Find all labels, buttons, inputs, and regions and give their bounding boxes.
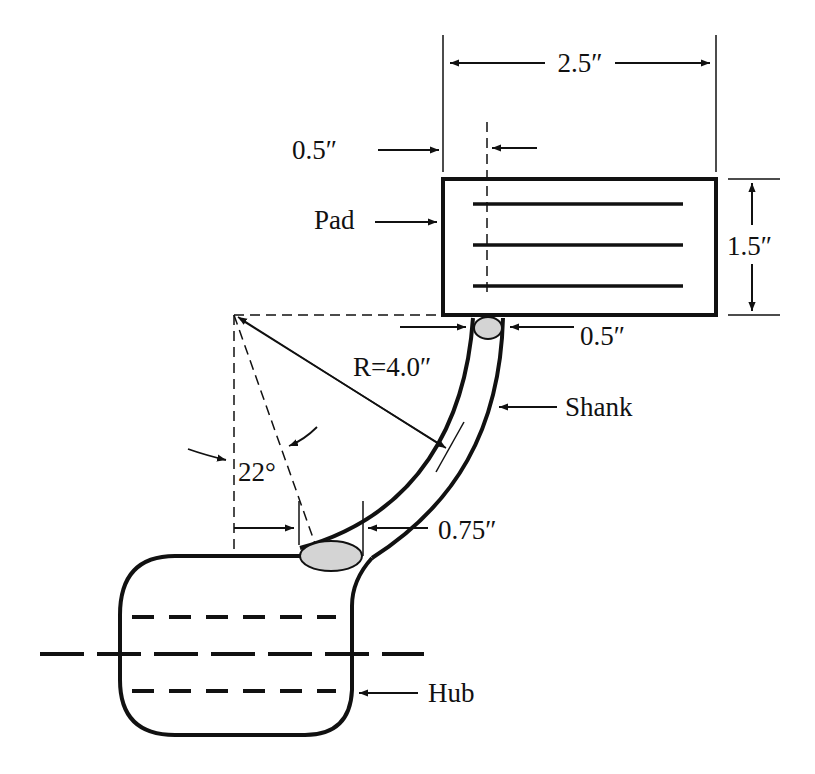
shank-bottom-width-dimension: 0.75″: [234, 501, 497, 556]
hub: [40, 556, 424, 735]
shank-callout: Shank: [499, 392, 633, 422]
shank-label: Shank: [565, 392, 633, 422]
shank-top-width-label: 0.5″: [580, 321, 625, 351]
pad: [443, 179, 716, 315]
pad-height-dimension: 1.5″: [727, 179, 780, 315]
radius-dimension: R=4.0″: [238, 317, 464, 472]
angle-dimension: 22°: [188, 427, 317, 487]
shank-bottom-width-label: 0.75″: [438, 515, 497, 545]
shank-pad-hub-diagram: 2.5″ 0.5″ Pad 1.5″ R=4.0″: [0, 0, 815, 774]
pad-callout: Pad: [314, 205, 437, 235]
hub-callout: Hub: [359, 678, 475, 708]
angle-label: 22°: [238, 457, 276, 487]
shank-top-width-dimension: 0.5″: [400, 321, 625, 351]
hub-label: Hub: [428, 678, 475, 708]
radius-label: R=4.0″: [353, 352, 431, 382]
pad-height-label: 1.5″: [727, 231, 772, 261]
pad-label: Pad: [314, 205, 355, 235]
pad-offset-label: 0.5″: [292, 135, 337, 165]
pad-width-dimension: 2.5″: [443, 35, 716, 172]
pad-width-label: 2.5″: [558, 48, 603, 78]
